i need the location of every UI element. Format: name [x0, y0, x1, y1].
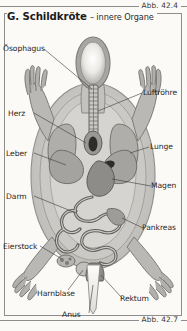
front-left-claws: [25, 66, 47, 95]
bottom-rule-left: [0, 320, 139, 321]
figure-title: G. Schildkröte – innere Organe: [7, 12, 157, 23]
heart-core: [89, 137, 98, 152]
label-lunge: Lunge: [150, 143, 173, 151]
ovary-follicle-2: [65, 261, 69, 265]
turtle-anatomy-illustration: [4, 13, 182, 316]
top-rule-left: [0, 6, 139, 7]
bottom-rule-right: [181, 320, 187, 321]
label-herz: Herz: [8, 110, 25, 118]
head-inner: [81, 42, 106, 84]
title-subtitle: – innere Organe: [90, 13, 154, 21]
leader-rektum: [101, 275, 122, 298]
label-magen: Magen: [151, 182, 176, 190]
label-harnblase: Harnblase: [37, 290, 75, 298]
label-eierstock: Eierstock: [3, 243, 37, 251]
ovary-left: [57, 255, 75, 267]
bottom-caption-label: Abb. 42.7: [139, 316, 182, 323]
leader-harnblase: [68, 270, 83, 290]
hind-right-leg: [127, 237, 162, 280]
label-anus: Anus: [62, 311, 81, 319]
label-leber: Leber: [6, 150, 27, 158]
ovary-follicle-3: [68, 257, 71, 260]
title-main: G. Schildkröte: [7, 12, 87, 22]
ovary-group: [57, 255, 75, 267]
figure-root: Abb. 42.4 G. Schildkröte – innere Organe: [0, 0, 187, 331]
label-darm: Darm: [6, 193, 27, 201]
top-caption-label: Abb. 42.4: [139, 2, 182, 9]
label-luftroehre: Luftröhre: [143, 89, 177, 97]
tail: [87, 265, 100, 314]
ovary-follicle-1: [60, 258, 64, 262]
top-rule-right: [181, 6, 187, 7]
label-rektum: Rektum: [120, 295, 149, 303]
heart-group: [84, 131, 102, 155]
label-pankreas: Pankreas: [142, 224, 176, 232]
label-oesophagus: Ösophagus: [3, 45, 45, 53]
trachea: [89, 85, 98, 135]
top-caption-row: Abb. 42.4: [0, 0, 187, 12]
